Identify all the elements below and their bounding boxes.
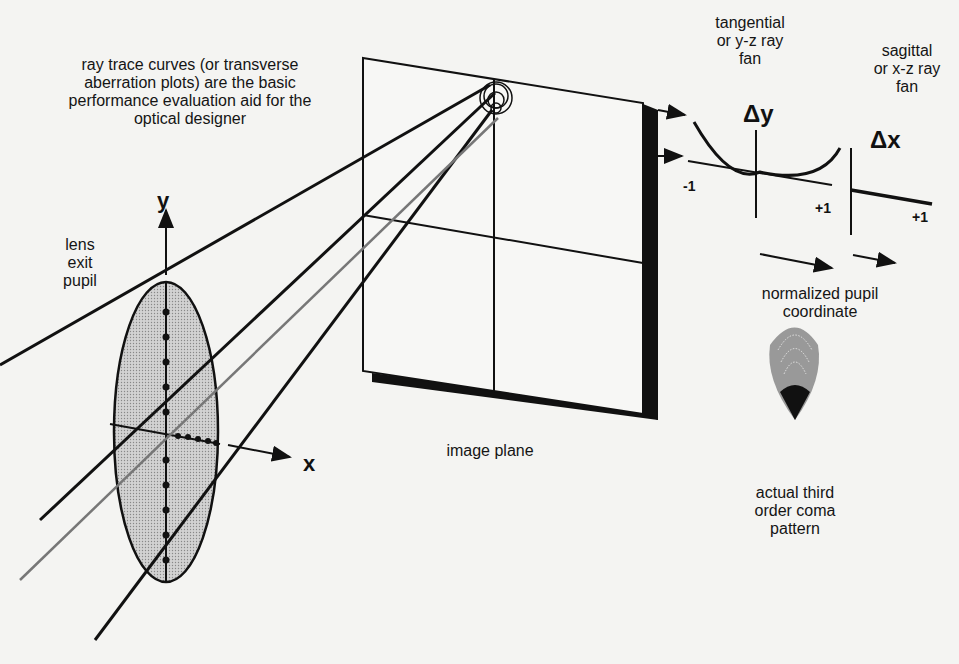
label-line: or x-z ray xyxy=(857,60,957,78)
sagittal-label: sagittal or x-z ray fan xyxy=(857,42,957,96)
label-line: fan xyxy=(857,78,957,96)
delta-x-label: Δx xyxy=(870,126,901,154)
image-plane-label: image plane xyxy=(430,442,550,460)
label-line: actual third xyxy=(740,484,850,502)
label-line: tangential xyxy=(700,14,800,32)
arrow-pupil-coordinate-2 xyxy=(853,255,895,263)
label-line: fan xyxy=(700,50,800,68)
label-line: or y-z ray xyxy=(700,32,800,50)
x-axis-label: x xyxy=(303,451,315,477)
y-axis-label: y xyxy=(157,188,169,214)
label-line: normalized pupil xyxy=(740,285,900,303)
pupil-coordinate-label: normalized pupil coordinate xyxy=(740,285,900,321)
coma-pattern xyxy=(769,328,819,421)
tick-plus-one-sagittal: +1 xyxy=(912,209,928,225)
label-line: pattern xyxy=(740,520,850,538)
image-plane xyxy=(363,58,658,420)
lens-exit-pupil xyxy=(110,210,290,582)
label-line: pupil xyxy=(55,272,105,290)
arrow-to-tangential xyxy=(658,110,685,115)
arrow-pupil-coordinate-1 xyxy=(760,254,832,268)
delta-y-label: Δy xyxy=(743,100,774,128)
label-line: coordinate xyxy=(740,303,900,321)
caption-line: ray trace curves (or transverse xyxy=(40,56,340,74)
label-line: order coma xyxy=(740,502,850,520)
caption-line: aberration plots) are the basic xyxy=(40,74,340,92)
caption-line: performance evaluation aid for the xyxy=(40,92,340,110)
caption-line: optical designer xyxy=(40,110,340,128)
tangential-label: tangential or y-z ray fan xyxy=(700,14,800,68)
tick-plus-one-tangential: +1 xyxy=(815,200,831,216)
label-line: sagittal xyxy=(857,42,957,60)
caption-text: ray trace curves (or transverse aberrati… xyxy=(40,56,340,128)
coma-pattern-label: actual third order coma pattern xyxy=(740,484,850,538)
label-line: exit xyxy=(55,254,105,272)
label-line: lens xyxy=(55,236,105,254)
lens-exit-pupil-label: lens exit pupil xyxy=(55,236,105,290)
tick-minus-one: -1 xyxy=(683,178,695,194)
